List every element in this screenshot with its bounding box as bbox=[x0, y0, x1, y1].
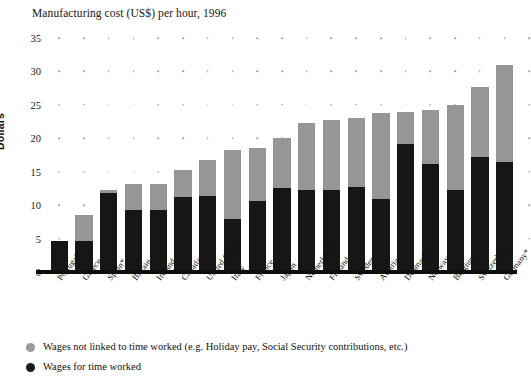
gridline-dot bbox=[529, 37, 531, 39]
legend-item: Wages for time worked bbox=[26, 360, 526, 374]
bar-segment-wages-not-linked bbox=[348, 118, 365, 187]
y-axis-label: Dollars bbox=[0, 113, 6, 150]
bar-segment-wages-not-linked bbox=[496, 65, 513, 161]
bar-segment-wages-not-linked bbox=[447, 105, 464, 190]
plot-area bbox=[47, 38, 517, 272]
bar-segment-wages-not-linked bbox=[471, 87, 488, 157]
y-axis-ticks: 05101520253035 bbox=[13, 38, 41, 272]
bar-germany[interactable] bbox=[496, 65, 513, 272]
x-axis-labels: Portugal*GreeceSpain*BritainIrelandCanad… bbox=[47, 276, 517, 338]
gridline-dot bbox=[529, 171, 531, 173]
bar-sweden[interactable] bbox=[348, 118, 365, 272]
bar-series bbox=[47, 38, 517, 272]
y-axis-tick: 20 bbox=[15, 133, 41, 144]
bar-segment-wages-not-linked bbox=[125, 184, 142, 209]
chart-legend: Wages not linked to time worked (e.g. Ho… bbox=[26, 340, 526, 376]
y-axis-tick: 25 bbox=[15, 99, 41, 110]
bar-japan[interactable] bbox=[273, 138, 290, 272]
gridline-dot bbox=[529, 104, 531, 106]
bar-belgium[interactable] bbox=[447, 105, 464, 272]
legend-swatch-gray-icon bbox=[26, 343, 35, 352]
bar-netherlands[interactable] bbox=[298, 123, 315, 272]
legend-item: Wages not linked to time worked (e.g. Ho… bbox=[26, 340, 526, 354]
gridline-dot bbox=[529, 137, 531, 139]
bar-segment-wages-time-worked bbox=[174, 197, 191, 272]
bar-segment-wages-not-linked bbox=[150, 184, 167, 209]
bar-united-states[interactable] bbox=[199, 160, 216, 272]
legend-label: Wages not linked to time worked (e.g. Ho… bbox=[43, 340, 407, 353]
bar-austria[interactable] bbox=[372, 113, 389, 272]
bar-france[interactable] bbox=[249, 148, 266, 272]
bar-britain[interactable] bbox=[125, 184, 142, 272]
legend-swatch-black-icon bbox=[26, 363, 35, 372]
bar-segment-wages-time-worked bbox=[273, 188, 290, 272]
bar-segment-wages-not-linked bbox=[273, 138, 290, 187]
bar-segment-wages-not-linked bbox=[224, 150, 241, 220]
bar-segment-wages-time-worked bbox=[397, 144, 414, 272]
bar-denmark[interactable] bbox=[397, 112, 414, 272]
bar-segment-wages-not-linked bbox=[422, 110, 439, 163]
bar-segment-wages-not-linked bbox=[174, 170, 191, 197]
bar-switzerland[interactable] bbox=[471, 87, 488, 272]
bar-canada[interactable] bbox=[174, 170, 191, 272]
chart-title: Manufacturing cost (US$) per hour, 1996 bbox=[32, 7, 226, 19]
gridline-dot bbox=[529, 71, 531, 73]
bar-segment-wages-time-worked bbox=[298, 190, 315, 272]
y-axis-tick: 5 bbox=[15, 233, 41, 244]
bar-segment-wages-not-linked bbox=[372, 113, 389, 199]
gridline-dot bbox=[529, 238, 531, 240]
y-axis-tick: 15 bbox=[15, 166, 41, 177]
y-axis-tick: 35 bbox=[15, 33, 41, 44]
bar-segment-wages-not-linked bbox=[249, 148, 266, 201]
y-axis-tick: 10 bbox=[15, 200, 41, 211]
y-axis-tick: 30 bbox=[15, 66, 41, 77]
bar-segment-wages-time-worked bbox=[100, 193, 117, 272]
bar-segment-wages-not-linked bbox=[199, 160, 216, 196]
bar-segment-wages-not-linked bbox=[75, 215, 92, 241]
bar-ireland[interactable] bbox=[150, 184, 167, 272]
bar-spain[interactable] bbox=[100, 190, 117, 272]
legend-label: Wages for time worked bbox=[43, 360, 141, 373]
bar-segment-wages-not-linked bbox=[323, 120, 340, 190]
bar-segment-wages-not-linked bbox=[298, 123, 315, 191]
bar-norway[interactable] bbox=[422, 110, 439, 272]
gridline-dot bbox=[529, 204, 531, 206]
bar-segment-wages-not-linked bbox=[397, 112, 414, 145]
